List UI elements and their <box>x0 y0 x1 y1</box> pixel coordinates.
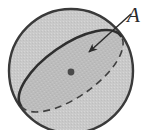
sphere-cross-section-figure: A <box>0 0 149 130</box>
sphere-center-dot <box>68 69 75 76</box>
area-label: A <box>127 5 140 26</box>
